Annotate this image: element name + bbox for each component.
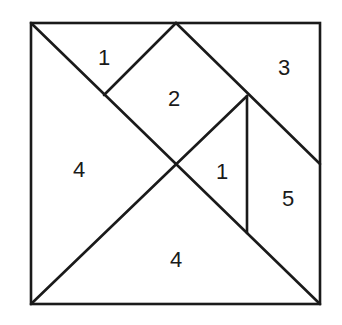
piece-label: 4 bbox=[73, 157, 85, 182]
piece-label: 1 bbox=[98, 45, 110, 70]
piece-label: 3 bbox=[278, 55, 290, 80]
tangram-diagram: 1 2 3 4 1 5 4 bbox=[0, 0, 342, 325]
edge-apex-left bbox=[104, 23, 176, 95]
piece-label: 2 bbox=[168, 86, 180, 111]
piece-label: 4 bbox=[170, 247, 182, 272]
piece-label: 5 bbox=[282, 186, 294, 211]
piece-label: 1 bbox=[216, 159, 228, 184]
